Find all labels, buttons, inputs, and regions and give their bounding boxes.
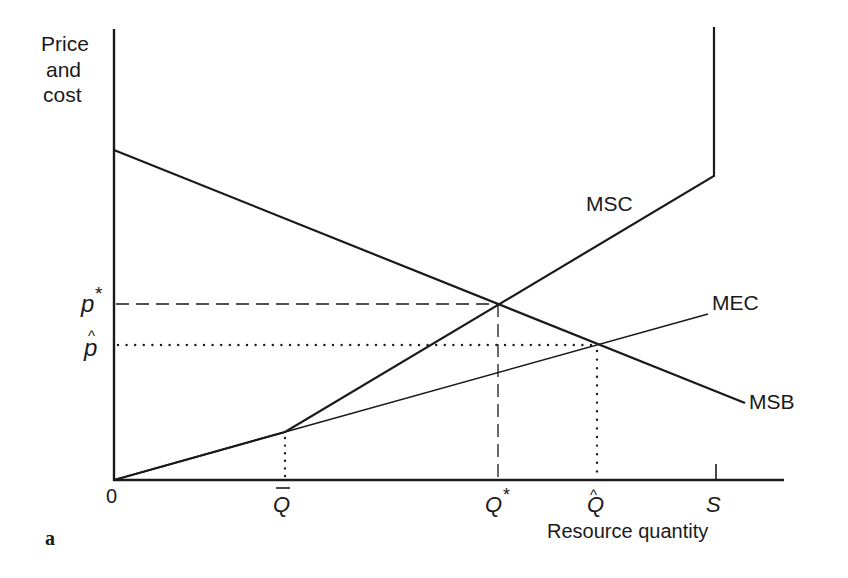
q-hat-label: ^ Q [587,486,604,517]
svg-text:*: * [503,485,510,505]
msb-label: MSB [749,390,795,413]
panel-label: a [45,527,55,549]
msc-curve [114,27,714,480]
svg-text:Q: Q [587,492,604,517]
q-bar-label: Q [273,488,290,517]
svg-text:p: p [80,290,94,317]
svg-text:Q: Q [273,492,290,517]
msb-curve [114,150,745,403]
p-hat-label: p ^ [83,327,97,361]
x-axis-label: Resource quantity [547,520,708,542]
svg-text:Q: Q [485,492,502,517]
mec-label: MEC [712,291,759,314]
y-axis-label: Price and cost [41,32,95,106]
msc-label: MSC [586,192,633,215]
svg-text:^: ^ [88,327,95,344]
p-star-label: p * [80,283,103,317]
resource-economics-diagram: Price and cost MSC MEC MSB p * p ^ 0 Q Q… [0,0,848,578]
svg-text:*: * [95,283,103,304]
s-label: S [706,492,721,517]
origin-label: 0 [106,485,117,507]
q-star-label: Q * [485,485,510,517]
